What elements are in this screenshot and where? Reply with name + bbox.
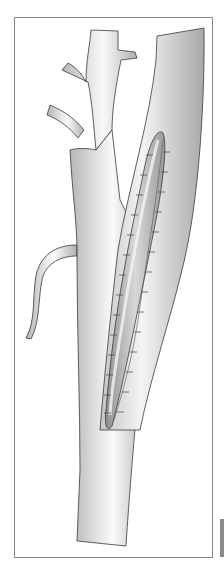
artery-illustration [0, 0, 224, 570]
external-carotid [47, 30, 137, 150]
thyroid-branch [26, 245, 77, 339]
